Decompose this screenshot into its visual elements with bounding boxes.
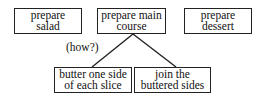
node-butter-one-side: butter one side of each slice	[54, 67, 132, 93]
node-prepare-salad: prepare salad	[14, 8, 82, 34]
node-label: butter one side of each slice	[59, 69, 127, 92]
how-question-label: (how?)	[66, 41, 99, 53]
node-label: prepare main course	[101, 10, 161, 33]
node-prepare-main-course: prepare main course	[97, 8, 166, 34]
edge-main-to-join	[133, 34, 176, 67]
node-label: join the buttered sides	[141, 69, 205, 92]
node-prepare-dessert: prepare dessert	[184, 8, 252, 34]
node-label: prepare salad	[31, 10, 65, 33]
node-label: prepare dessert	[201, 10, 235, 33]
node-join-buttered-sides: join the buttered sides	[134, 67, 211, 93]
